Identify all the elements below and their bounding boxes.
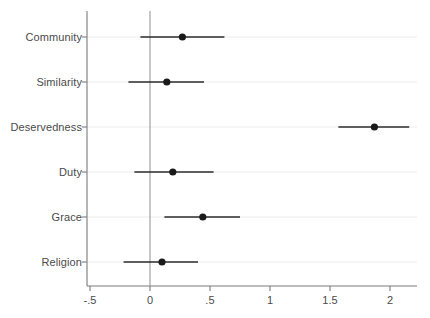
x-tick-label-3: 1 (267, 294, 273, 306)
x-axis-tick-labels: -.50.511.52 (0, 0, 430, 318)
x-tick-label-1: 0 (147, 294, 153, 306)
x-tick-label-2: .5 (205, 294, 214, 306)
x-tick-label-5: 2 (387, 294, 393, 306)
x-tick-label-0: -.5 (83, 294, 96, 306)
coefficient-plot: CommunitySimilarityDeservednessDutyGrace… (0, 0, 430, 318)
x-tick-label-4: 1.5 (322, 294, 338, 306)
